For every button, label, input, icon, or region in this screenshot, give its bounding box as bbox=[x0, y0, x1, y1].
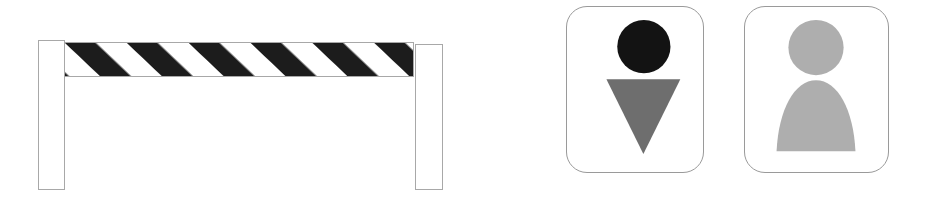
canvas-stage bbox=[0, 0, 925, 206]
dark-figure-head-icon bbox=[617, 20, 670, 73]
road-barrier-figure bbox=[0, 0, 470, 206]
barrier-stripe-pattern-icon bbox=[65, 43, 413, 76]
barrier-left-post bbox=[38, 40, 65, 190]
pictogram-card-dark-figure[interactable] bbox=[566, 6, 704, 173]
pictogram-card-light-figure[interactable] bbox=[744, 6, 889, 173]
light-figure-head-icon bbox=[788, 20, 843, 75]
light-figure-person-icon bbox=[745, 7, 888, 172]
barrier-rail bbox=[64, 42, 414, 77]
dark-figure-icon bbox=[567, 7, 703, 172]
dark-figure-triangle-body-icon bbox=[606, 79, 680, 154]
light-figure-dome-body-icon bbox=[777, 80, 856, 151]
barrier-right-post bbox=[415, 44, 443, 190]
